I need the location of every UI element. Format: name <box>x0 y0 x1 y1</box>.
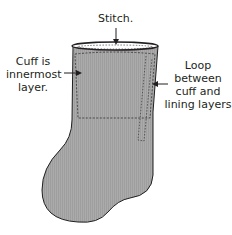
loop-label-line: Loop <box>164 59 232 72</box>
cuff-label-line: layer. <box>6 81 60 94</box>
loop-label: Loop between cuff and lining layers <box>164 59 232 111</box>
loop-label-line: cuff and <box>164 85 232 98</box>
stocking-diagram <box>0 0 232 235</box>
loop-label-line: between <box>164 72 232 85</box>
cuff-label-line: innermost <box>6 68 60 81</box>
stitch-label: Stitch. <box>98 12 133 25</box>
cuff-label: Cuff is innermost layer. <box>6 55 60 94</box>
loop-label-line: lining layers <box>164 98 232 111</box>
cuff-label-line: Cuff is <box>6 55 60 68</box>
